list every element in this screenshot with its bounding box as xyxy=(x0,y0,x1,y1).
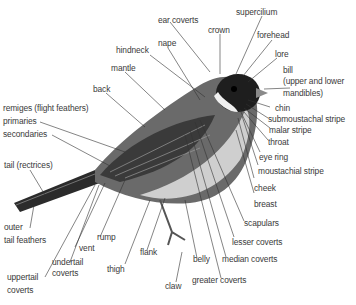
label-rump: rump xyxy=(97,232,116,242)
label-ear-coverts: ear coverts xyxy=(158,15,198,25)
label-forehead: forehead xyxy=(257,30,289,40)
label-cheek: cheek xyxy=(254,183,276,193)
label-bill: bill xyxy=(283,65,293,75)
label-thigh: thigh xyxy=(107,264,125,274)
label-crown: crown xyxy=(208,25,230,35)
label-supercilium: supercilium xyxy=(236,7,277,17)
label-primaries: primaries xyxy=(3,116,37,126)
label-tail-feathers: tail feathers xyxy=(4,235,46,245)
label-uppertail-line2: coverts xyxy=(7,285,33,295)
label-hindneck: hindneck xyxy=(116,45,149,55)
label-secondaries: secondaries xyxy=(3,129,47,139)
label-moustachial-stripe: moustachial stripe xyxy=(258,166,324,176)
label-claw: claw xyxy=(165,281,181,291)
label-vent: vent xyxy=(79,243,94,253)
label-outer: outer xyxy=(4,222,23,232)
label-throat: throat xyxy=(268,137,289,147)
label-breast: breast xyxy=(254,199,277,209)
label-lesser-coverts: lesser coverts xyxy=(232,237,282,247)
label-back: back xyxy=(93,84,110,94)
label-tail: tail (rectrices) xyxy=(4,160,53,170)
label-remiges: remiges (flight feathers) xyxy=(3,103,88,113)
label-uppertail: uppertail xyxy=(7,272,38,282)
label-submoustachal-stripe: submoustachal stripe xyxy=(268,114,345,124)
label-undertail: undertail xyxy=(52,257,83,267)
label-mantle: mantle xyxy=(111,63,136,73)
bird-anatomy-diagram: ear coverts supercilium crown forehead h… xyxy=(0,0,356,305)
label-eye-ring: eye ring xyxy=(259,152,288,162)
label-bill-line2: (upper and lower xyxy=(283,76,344,86)
label-nape: nape xyxy=(158,38,176,48)
label-chin: chin xyxy=(275,103,290,113)
label-flank: flank xyxy=(140,247,157,257)
label-scapulars: scapulars xyxy=(244,218,279,228)
label-bill-line3: mandibles) xyxy=(283,88,323,98)
label-belly: belly xyxy=(193,254,210,264)
label-greater-coverts: greater coverts xyxy=(192,275,246,285)
label-lore: lore xyxy=(275,49,289,59)
label-undertail-line2: coverts xyxy=(52,268,78,278)
label-malar-stripe: malar stripe xyxy=(269,125,312,135)
label-median-coverts: median coverts xyxy=(222,254,277,264)
